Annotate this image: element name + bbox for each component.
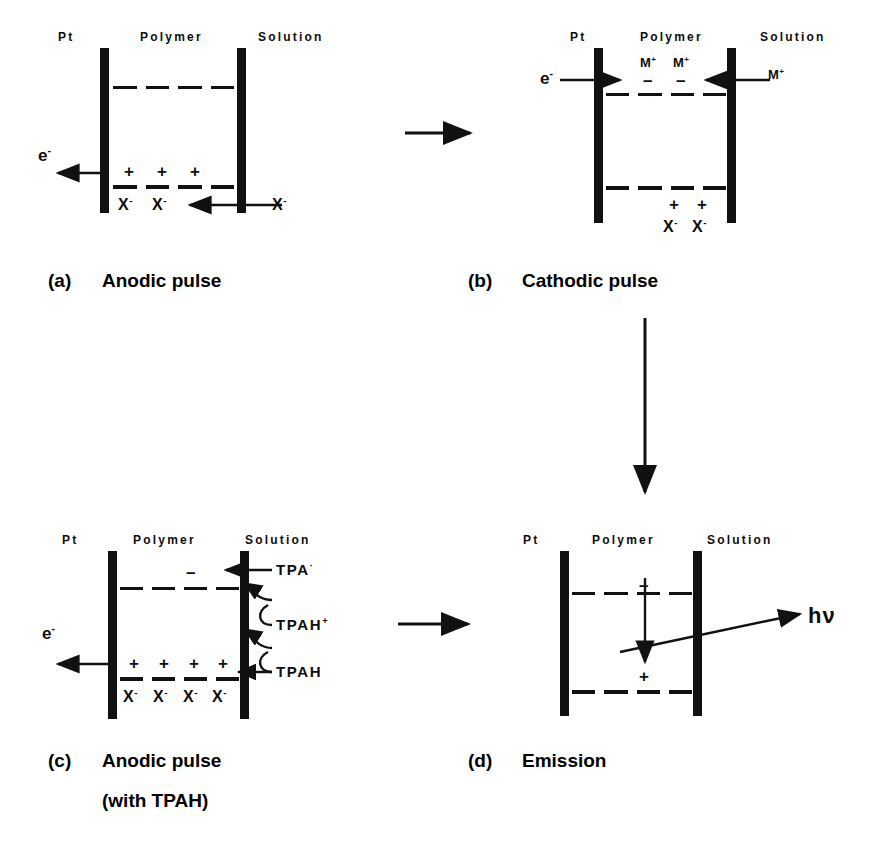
panel-d-lumo-level: [572, 592, 692, 596]
panel-d-electron-marker: –: [639, 577, 648, 594]
panel-b-header-solution: Solution: [760, 30, 826, 44]
panel-a-homo-level: [113, 185, 234, 189]
panel-a-counter-ion-2: X-: [152, 196, 167, 213]
panel-c-tpah-bracket-upper: [260, 605, 272, 625]
panel-a-caption-text: Anodic pulse: [102, 270, 221, 291]
panel-a-header-pt: Pt: [58, 30, 74, 44]
panel-b-residual-hole-2: +: [697, 196, 707, 213]
panel-a-hole-2: +: [157, 163, 167, 180]
panel-c-caption-text: Anodic pulse: [102, 750, 221, 771]
panel-b-caption-tag: (b): [468, 270, 522, 292]
panel-d-header-polymer: Polymer: [592, 533, 655, 547]
panel-c-caption-line2: (with TPAH): [102, 790, 208, 812]
panel-a-lumo-level: [113, 86, 234, 90]
panel-c-species-tpah-cation: TPAH+: [276, 617, 329, 632]
panel-b-residual-ion-1: X-: [663, 218, 678, 235]
panel-c-pt-electrode-bar: [108, 551, 117, 719]
panel-c-hole-4: +: [218, 655, 228, 672]
panel-c-homo-level: [120, 677, 239, 681]
panel-a-interface-bar: [237, 48, 246, 213]
panel-c-hole-1: +: [129, 655, 139, 672]
panel-a-incoming-ion: X-: [272, 196, 287, 213]
panel-c-promoted-electron: –: [186, 564, 195, 581]
panel-c-header-pt: Pt: [62, 533, 78, 547]
panel-b-cation-1: M+: [640, 56, 656, 69]
panel-c-species-tpah: TPAH: [276, 664, 322, 679]
panel-d-interface-bar: [693, 551, 702, 716]
panel-c-caption: (c)Anodic pulse: [48, 750, 221, 772]
panel-b-header-polymer: Polymer: [640, 30, 703, 44]
panel-d-hole-marker: +: [639, 668, 649, 685]
panel-c-interface-bar: [240, 551, 249, 719]
panel-b-residual-hole-1: +: [669, 196, 679, 213]
panel-a-hole-3: +: [190, 163, 200, 180]
panel-a-header-solution: Solution: [258, 30, 324, 44]
panel-b-caption-text: Cathodic pulse: [522, 270, 658, 291]
panel-a-caption-tag: (a): [48, 270, 102, 292]
panel-b-residual-ion-2: X-: [692, 218, 707, 235]
panel-d-emission-label: hν: [808, 605, 836, 627]
panel-c-species-tpa-radical: TPA·: [276, 562, 314, 577]
panel-d-caption-tag: (d): [468, 750, 522, 772]
panel-c-electron-label: e-: [42, 623, 55, 642]
panel-c-lumo-level: [120, 587, 239, 591]
panel-a-counter-ion-1: X-: [118, 196, 133, 213]
panel-c-hole-3: +: [189, 655, 199, 672]
panel-a-electron-label: e-: [38, 145, 51, 164]
panel-a-caption: (a)Anodic pulse: [48, 270, 221, 292]
panel-d-photon-emission-arrow: [620, 614, 800, 652]
panel-b-electron-label: e-: [540, 68, 553, 87]
panel-c-tpah-bracket-lower: [260, 652, 272, 672]
panel-d-caption: (d)Emission: [468, 750, 606, 772]
panel-c-caption-tag: (c): [48, 750, 102, 772]
panel-c-counter-ion-2: X-: [153, 688, 168, 705]
figure-canvas: Pt Polymer Solution e- + + + X- X- X- (a…: [0, 0, 886, 842]
panel-d-caption-text: Emission: [522, 750, 606, 771]
panel-c-counter-ion-1: X-: [123, 688, 138, 705]
panel-d-header-solution: Solution: [707, 533, 773, 547]
panel-b-injected-electron-1: –: [643, 72, 652, 89]
panel-d-homo-level: [572, 690, 692, 694]
panel-a-header-polymer: Polymer: [140, 30, 203, 44]
panel-b-cation-2: M+: [673, 56, 689, 69]
panel-a-hole-1: +: [124, 163, 134, 180]
panel-d-pt-electrode-bar: [560, 551, 569, 716]
panel-c-hole-2: +: [159, 655, 169, 672]
panel-c-counter-ion-4: X-: [212, 688, 227, 705]
panel-b-injected-electron-2: –: [676, 72, 685, 89]
panel-b-caption: (b)Cathodic pulse: [468, 270, 658, 292]
panel-b-homo-level: [606, 186, 726, 190]
panel-b-pt-electrode-bar: [594, 48, 603, 223]
panel-a-pt-electrode-bar: [100, 48, 109, 213]
panel-c-header-polymer: Polymer: [133, 533, 196, 547]
panel-c-counter-ion-3: X-: [183, 688, 198, 705]
panel-b-interface-bar: [727, 48, 736, 223]
panel-b-lumo-level: [606, 93, 726, 97]
panel-b-header-pt: Pt: [570, 30, 586, 44]
panel-c-header-solution: Solution: [245, 533, 311, 547]
panel-d-header-pt: Pt: [523, 533, 539, 547]
arrow-overlay: [0, 0, 886, 842]
panel-b-incoming-ion: M+: [768, 68, 784, 81]
